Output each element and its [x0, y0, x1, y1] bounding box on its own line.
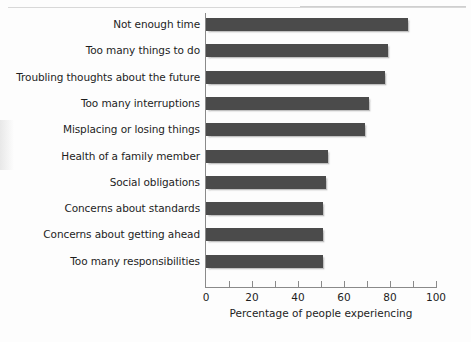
category-label: Misplacing or losing things [63, 123, 200, 135]
category-label: Concerns about standards [64, 202, 200, 214]
category-label: Health of a family member [61, 150, 200, 162]
x-tick-label: 0 [186, 291, 226, 303]
bar [206, 228, 323, 241]
category-label: Troubling thoughts about the future [16, 71, 200, 83]
x-tick-label: 20 [232, 291, 272, 303]
category-label: Not enough time [113, 18, 200, 30]
x-tick-label: 80 [370, 291, 410, 303]
x-axis-tick [367, 281, 368, 287]
bar [206, 202, 323, 215]
bar [206, 71, 385, 84]
category-label: Social obligations [110, 176, 200, 188]
x-axis-tick [252, 281, 253, 287]
bar-chart: Not enough timeToo many things to doTrou… [0, 0, 471, 342]
bar [206, 255, 323, 268]
bar [206, 97, 369, 110]
bar [206, 44, 388, 57]
x-axis-tick [298, 281, 299, 287]
x-axis-tick [344, 281, 345, 287]
chart-page: Not enough timeToo many things to doTrou… [0, 0, 471, 342]
bar [206, 123, 365, 136]
category-label: Concerns about getting ahead [43, 228, 200, 240]
x-axis-line [205, 287, 437, 288]
category-label: Too many interruptions [81, 97, 200, 109]
category-axis-labels: Not enough timeToo many things to doTrou… [8, 0, 200, 342]
x-axis-title: Percentage of people experiencing [206, 307, 436, 320]
x-axis-tick [321, 281, 322, 287]
category-label: Too many responsibilities [70, 255, 200, 267]
y-axis-line [205, 13, 206, 287]
bar [206, 150, 328, 163]
x-axis-tick [275, 281, 276, 287]
x-axis-tick [229, 281, 230, 287]
x-tick-label: 60 [324, 291, 364, 303]
bar [206, 176, 326, 189]
category-label: Too many things to do [86, 44, 200, 56]
x-axis-tick [390, 281, 391, 287]
x-axis-tick [413, 281, 414, 287]
bar [206, 18, 408, 31]
x-tick-label: 100 [416, 291, 456, 303]
x-tick-label: 40 [278, 291, 318, 303]
x-axis-tick [436, 281, 437, 287]
